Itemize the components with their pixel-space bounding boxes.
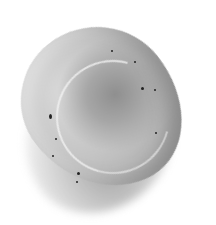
mineral-speck: [49, 114, 52, 119]
mineral-speck: [77, 172, 80, 175]
mineral-speck: [134, 61, 136, 63]
mineral-speck: [55, 138, 57, 140]
mineral-speck: [76, 181, 78, 183]
mineral-speck: [155, 132, 157, 134]
image-scene: [0, 0, 216, 225]
mineral-speck: [111, 50, 113, 52]
mineral-speck: [141, 87, 144, 90]
mineral-speck: [154, 89, 156, 91]
mineral-speck: [52, 155, 54, 157]
